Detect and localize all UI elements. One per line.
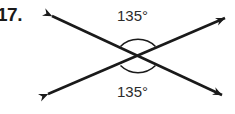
angle-measure-top: 135° bbox=[117, 8, 148, 23]
geometry-figure: 17. 135° 135° bbox=[0, 0, 235, 114]
angle-arc-bottom bbox=[121, 66, 156, 73]
angle-arc-top bbox=[121, 39, 156, 46]
angle-measure-bottom: 135° bbox=[117, 84, 148, 99]
